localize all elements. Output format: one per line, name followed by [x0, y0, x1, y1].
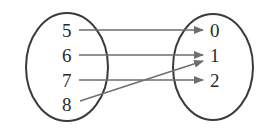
mapping-diagram: 5 6 7 8 0 1 2	[0, 0, 266, 130]
range-value-0: 0	[210, 20, 220, 41]
arrow-8-to-1	[80, 61, 203, 101]
domain-value-8: 8	[62, 94, 72, 115]
range-value-1: 1	[210, 45, 220, 66]
range-value-2: 2	[210, 70, 220, 91]
domain-value-7: 7	[62, 70, 72, 91]
domain-value-6: 6	[62, 45, 72, 66]
domain-value-5: 5	[62, 20, 72, 41]
